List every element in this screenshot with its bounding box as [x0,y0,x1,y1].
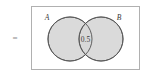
venn-svg-canvas: A B 0.5 [0,0,149,79]
venn-diagram-figure: = A B 0.5 [0,0,149,79]
set-label-a: A [44,13,50,22]
intersection-probability-value: 0.5 [81,35,91,44]
set-label-b: B [117,13,122,22]
